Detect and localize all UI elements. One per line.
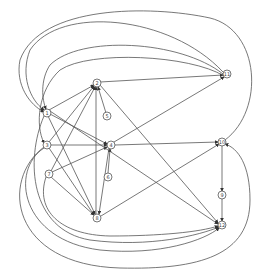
edge-n11-n1 xyxy=(26,22,223,110)
edge-n1-n2 xyxy=(49,85,94,110)
node-n1: 1 xyxy=(43,109,51,117)
edge-n1-n8 xyxy=(48,116,95,214)
node-label: 10 xyxy=(219,139,225,145)
node-n9: 9 xyxy=(218,191,226,199)
edge-n7-n4 xyxy=(52,147,107,172)
node-n4: 4 xyxy=(107,141,115,149)
node-n11: 11 xyxy=(223,70,231,78)
edge-n11-n1 xyxy=(43,45,223,109)
node-n10: 10 xyxy=(218,138,226,146)
node-n6: 6 xyxy=(104,173,112,181)
node-label: 5 xyxy=(105,113,108,119)
edge-n7-n2 xyxy=(51,87,95,171)
node-label: 6 xyxy=(106,174,109,180)
edge-n3-n10 xyxy=(20,144,250,268)
node-label: 8 xyxy=(95,215,98,221)
node-label: 4 xyxy=(109,142,112,148)
node-label: 11 xyxy=(224,71,230,77)
node-n8: 8 xyxy=(93,214,101,222)
node-label: 7 xyxy=(47,171,50,177)
node-label: 3 xyxy=(45,142,48,148)
edge-n1-n12 xyxy=(50,111,218,224)
node-n3: 3 xyxy=(43,141,51,149)
edge-n2-n12 xyxy=(100,85,218,223)
edge-layer xyxy=(19,11,252,268)
edge-n4-n11 xyxy=(114,77,224,142)
node-label: 12 xyxy=(219,222,225,228)
edge-n2-n11 xyxy=(100,75,223,82)
node-n5: 5 xyxy=(103,112,111,120)
node-n2: 2 xyxy=(93,79,101,87)
node-n12: 12 xyxy=(218,221,226,229)
node-label: 9 xyxy=(220,192,223,198)
node-n7: 7 xyxy=(45,170,53,178)
graph-diagram: 213754681110912 xyxy=(0,0,266,278)
node-label: 2 xyxy=(95,80,98,86)
node-label: 1 xyxy=(45,110,48,116)
edge-n4-n10 xyxy=(115,142,218,145)
